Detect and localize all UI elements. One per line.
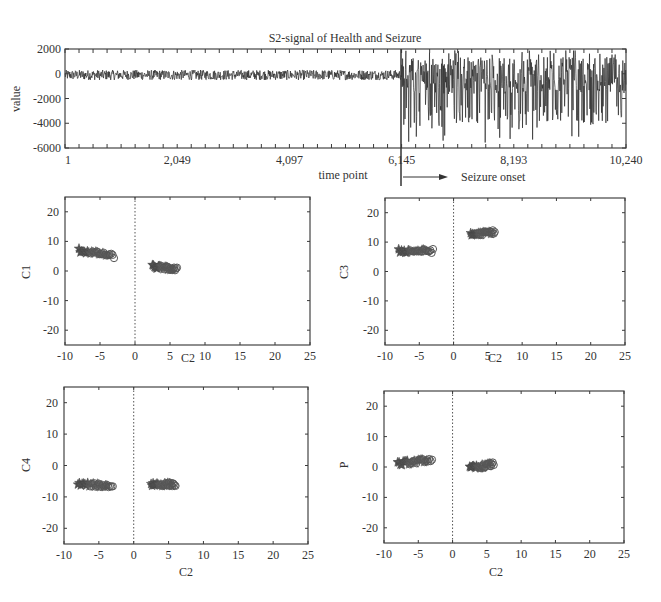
y-tick-label: 20 — [367, 206, 379, 220]
x-tick-label: 25 — [618, 547, 630, 561]
y-tick-label: -20 — [42, 521, 58, 535]
y-tick-label: -4000 — [33, 116, 61, 130]
x-axis-label: time point — [319, 168, 369, 182]
x-tick-label: 20 — [269, 349, 281, 363]
y-tick-label: 0 — [372, 460, 378, 474]
x-tick-label: -10 — [56, 548, 72, 562]
y-tick-label: 0 — [52, 459, 58, 473]
x-tick-label: 15 — [232, 548, 244, 562]
y-axis-label: value — [9, 86, 23, 112]
x-axis-label: C2 — [488, 351, 502, 365]
plot-frame — [65, 197, 310, 345]
y-tick-label: 10 — [367, 235, 379, 249]
figure: S2-signal of Health and Seizure 20000-20… — [0, 0, 661, 602]
x-tick-label: 25 — [619, 349, 631, 363]
chart-title: S2-signal of Health and Seizure — [269, 31, 422, 45]
x-tick-label: 20 — [267, 548, 279, 562]
x-axis-label: C2 — [181, 351, 195, 365]
x-tick-label: 10,240 — [610, 153, 643, 167]
y-tick-label: -2000 — [33, 92, 61, 106]
x-tick-label: -10 — [377, 349, 393, 363]
x-tick-label: 5 — [484, 547, 490, 561]
x-tick-label: -5 — [95, 349, 105, 363]
x-tick-label: 10 — [197, 548, 209, 562]
y-tick-label: -10 — [362, 490, 378, 504]
x-tick-label: -10 — [376, 547, 392, 561]
arrow-right-icon — [439, 174, 448, 180]
y-tick-label: -10 — [42, 490, 58, 504]
x-tick-label: 10 — [515, 547, 527, 561]
x-tick-label: 25 — [302, 548, 314, 562]
x-tick-label: 15 — [549, 547, 561, 561]
x-tick-label: -5 — [413, 547, 423, 561]
y-tick-label: 10 — [47, 234, 59, 248]
y-tick-label: -6000 — [33, 141, 61, 155]
x-tick-label: 20 — [584, 547, 596, 561]
scatter-c1-vs-c2: -10-5051015202520100-10-20C2C1 — [19, 197, 316, 365]
x-tick-label: 0 — [451, 349, 457, 363]
y-tick-label: 20 — [46, 396, 58, 410]
signal-trace — [65, 50, 626, 142]
y-tick-label: 10 — [366, 430, 378, 444]
x-tick-label: 2,049 — [164, 153, 191, 167]
y-tick-label: -20 — [43, 323, 59, 337]
y-tick-label: 0 — [55, 67, 61, 81]
signal-plot: S2-signal of Health and Seizure 20000-20… — [9, 31, 643, 186]
x-tick-label: 10 — [516, 349, 528, 363]
cluster-seizure — [146, 478, 179, 490]
y-axis-label: C1 — [19, 265, 33, 279]
x-tick-label: 20 — [585, 349, 597, 363]
plot-frame — [385, 198, 625, 345]
x-tick-label: 10 — [199, 349, 211, 363]
x-axis-label: C2 — [179, 565, 193, 579]
scatter-p-vs-c2: -10-5051015202520100-10-20C2P — [337, 391, 630, 579]
x-axis-label: C2 — [489, 565, 503, 579]
x-tick-label: 0 — [450, 547, 456, 561]
x-tick-label: 5 — [167, 349, 173, 363]
y-tick-label: 10 — [46, 427, 58, 441]
seizure-onset-label: Seizure onset — [461, 170, 526, 184]
cluster-seizure — [466, 227, 498, 239]
y-tick-label: 2000 — [37, 42, 61, 56]
y-tick-label: -20 — [362, 521, 378, 535]
x-tick-label: 15 — [550, 349, 562, 363]
scatter-c4-vs-c2: -10-5051015202520100-10-20C2C4 — [19, 387, 314, 579]
x-tick-label: 4,097 — [276, 153, 303, 167]
cluster-health — [393, 455, 436, 470]
x-tick-label: -5 — [94, 548, 104, 562]
y-axis-label: C3 — [337, 265, 351, 279]
y-tick-label: 20 — [366, 399, 378, 413]
cluster-health — [73, 478, 116, 491]
plot-frame — [384, 391, 624, 543]
x-tick-label: 25 — [304, 349, 316, 363]
cluster-seizure — [148, 260, 181, 274]
x-tick-label: 8,193 — [500, 153, 527, 167]
y-axis-label: C4 — [19, 458, 33, 472]
cluster-health — [74, 244, 117, 262]
y-tick-label: 0 — [373, 265, 379, 279]
x-tick-label: 15 — [234, 349, 246, 363]
x-tick-label: 5 — [166, 548, 172, 562]
cluster-health — [394, 244, 437, 257]
x-tick-label: -5 — [414, 349, 424, 363]
y-tick-label: -10 — [43, 294, 59, 308]
y-tick-label: 20 — [47, 205, 59, 219]
x-tick-label: -10 — [57, 349, 73, 363]
y-axis-label: P — [337, 461, 351, 468]
plot-frame — [65, 49, 626, 148]
y-tick-label: 0 — [53, 264, 59, 278]
y-tick-label: -10 — [363, 294, 379, 308]
scatter-c3-vs-c2: -10-5051015202520100-10-20C2C3 — [337, 198, 631, 365]
cluster-seizure — [465, 458, 497, 472]
plot-frame — [64, 387, 308, 544]
x-tick-label: 1 — [65, 153, 71, 167]
x-tick-label: 0 — [132, 349, 138, 363]
x-tick-label: 0 — [131, 548, 137, 562]
y-tick-label: -20 — [363, 323, 379, 337]
